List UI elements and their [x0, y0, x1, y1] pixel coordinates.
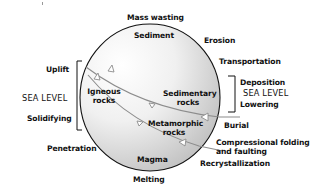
label-magma: Magma	[137, 155, 168, 164]
label-sediment: Sediment	[134, 31, 174, 40]
label-igneous-1: Igneous	[86, 87, 122, 96]
label-burial: Burial	[224, 121, 249, 130]
label-sedimentary-2: rocks	[163, 98, 213, 107]
label-erosion: Erosion	[204, 36, 235, 45]
label-mass-wasting: Mass wasting	[127, 13, 184, 22]
label-compressional-2: and faulting	[216, 147, 267, 156]
label-deposition: Deposition	[240, 78, 285, 87]
label-solidifying: Solidifying	[27, 114, 72, 123]
stray-mark	[42, 2, 43, 5]
rock-cycle-diagram: Mass wasting Erosion Transportation Depo…	[0, 0, 319, 192]
label-metamorphic-1: Metamorphic	[148, 119, 200, 128]
right-bracket	[228, 76, 235, 112]
label-sea-level-right: SEA LEVEL	[243, 89, 288, 98]
label-melting: Melting	[133, 175, 165, 184]
label-igneous-2: rocks	[86, 96, 122, 105]
label-metamorphic-2: rocks	[148, 128, 200, 137]
label-transportation: Transportation	[219, 57, 281, 66]
label-recrystallization: Recrystallization	[200, 159, 270, 168]
label-sedimentary-1: Sedimentary	[163, 89, 213, 98]
label-penetration: Penetration	[47, 144, 97, 153]
label-sea-level-left: SEA LEVEL	[22, 94, 67, 103]
label-compressional-1: Compressional folding	[216, 138, 310, 147]
label-uplift: Uplift	[46, 65, 69, 74]
label-lowering: Lowering	[240, 100, 279, 109]
